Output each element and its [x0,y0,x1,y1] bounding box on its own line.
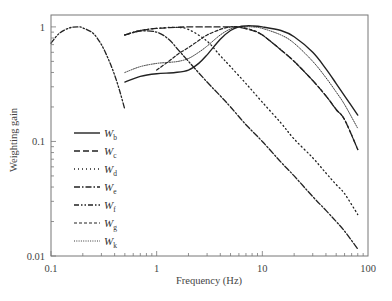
legend-item-wb: Wb [74,127,117,142]
legend: WbWcWdWeWfWgWk [74,127,117,250]
legend-item-wc: Wc [74,145,117,160]
legend-item-wf: Wf [74,199,116,214]
x-axis-title: Frequency (Hz) [176,275,243,287]
x-tick-label: 0.1 [44,263,57,274]
legend-label: Wd [104,163,117,178]
legend-label: We [104,181,117,196]
legend-label: Wk [104,235,117,250]
legend-label: Wb [104,127,117,142]
legend-item-we: We [74,181,117,196]
series-line-wb [125,26,358,115]
x-tick-label: 1 [154,263,159,274]
series-line-wg [157,27,358,150]
y-tick-labels: 0.010.11 [27,22,45,262]
weighting-gain-chart: 0.1110100 0.010.11 Frequency (Hz) Weight… [0,0,392,301]
legend-item-wk: Wk [74,235,117,250]
legend-item-wg: Wg [74,217,117,232]
x-tick-labels: 0.1110100 [44,263,375,274]
series-line-wc [125,27,358,150]
series-line-wd [125,27,358,214]
y-axis-title: Weighting gain [8,107,19,172]
legend-item-wd: Wd [74,163,117,178]
legend-label: Wc [104,145,117,160]
y-tick-label: 1 [40,22,45,33]
x-tick-label: 10 [257,263,268,274]
y-tick-label: 0.1 [32,136,45,147]
y-tick-label: 0.01 [27,251,45,262]
series-lines [51,26,358,249]
series-line-wf [51,27,125,110]
legend-label: Wg [104,217,117,232]
axis-ticks [51,27,363,256]
legend-label: Wf [104,199,116,214]
x-tick-label: 100 [360,263,376,274]
